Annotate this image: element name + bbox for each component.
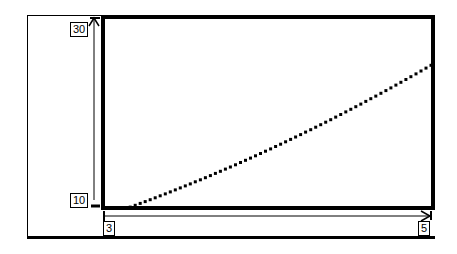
x-max-label: 5 — [418, 221, 430, 236]
x-min-label: 3 — [103, 221, 115, 236]
data-series-curve — [129, 64, 433, 209]
chart-svg — [0, 0, 457, 254]
y-max-label: 30 — [70, 22, 88, 37]
y-min-label: 10 — [70, 193, 88, 208]
